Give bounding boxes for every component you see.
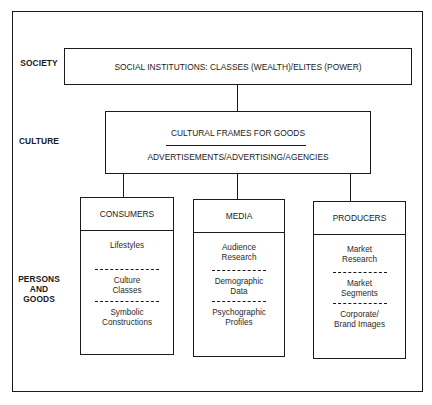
dashed-divider <box>333 303 387 304</box>
column-header: MEDIA <box>194 200 284 233</box>
level-label-line: AND <box>16 284 62 294</box>
level-label-society: SOCIETY <box>16 58 62 68</box>
level-label-persons-and-goods: PERSONS AND GOODS <box>16 274 62 304</box>
column-header: PRODUCERS <box>314 202 405 235</box>
society-box-text: SOCIAL INSTITUTIONS: CLASSES (WEALTH)/EL… <box>114 62 361 72</box>
list-item: DemographicData <box>215 277 264 297</box>
level-label-culture: CULTURE <box>16 136 62 146</box>
dashed-divider <box>333 272 387 273</box>
connector-line <box>123 174 124 198</box>
dashed-divider <box>95 269 159 270</box>
list-item: Corporate/Brand Images <box>334 310 385 330</box>
column-body: AudienceResearch DemographicData Psychog… <box>194 233 284 328</box>
connector-line <box>237 85 238 111</box>
society-box: SOCIAL INSTITUTIONS: CLASSES (WEALTH)/EL… <box>64 48 412 85</box>
column-body: Lifestyles CultureClasses SymbolicConstr… <box>81 231 173 328</box>
list-item: Lifestyles <box>110 241 144 251</box>
level-label-line: PERSONS <box>16 274 62 284</box>
culture-box-title: CULTURAL FRAMES FOR GOODS <box>106 128 370 138</box>
column-header-label: MEDIA <box>226 211 253 221</box>
column-header: CONSUMERS <box>81 198 173 231</box>
culture-box: CULTURAL FRAMES FOR GOODS ADVERTISEMENTS… <box>105 111 371 174</box>
connector-line <box>350 174 351 201</box>
media-box: MEDIA AudienceResearch DemographicData P… <box>193 199 285 357</box>
producers-box: PRODUCERS MarketResearch MarketSegments … <box>313 201 406 359</box>
list-item: AudienceResearch <box>221 243 256 263</box>
list-item: SymbolicConstructions <box>102 308 152 328</box>
level-label-line: GOODS <box>16 294 62 304</box>
dashed-divider <box>212 301 266 302</box>
consumers-box: CONSUMERS Lifestyles CultureClasses Symb… <box>80 197 174 355</box>
dashed-divider <box>95 301 159 302</box>
list-item: MarketResearch <box>342 245 377 265</box>
dashed-divider <box>212 270 266 271</box>
list-item: CultureClasses <box>112 276 141 296</box>
column-header-label: PRODUCERS <box>333 213 387 223</box>
column-header-label: CONSUMERS <box>100 209 154 219</box>
list-item: PsychographicProfiles <box>212 308 266 328</box>
culture-box-subtitle: ADVERTISEMENTS/ADVERTISING/AGENCIES <box>106 152 370 162</box>
list-item: MarketSegments <box>341 279 378 299</box>
culture-box-divider <box>166 145 306 146</box>
connector-line <box>237 174 238 199</box>
column-body: MarketResearch MarketSegments Corporate/… <box>314 235 405 330</box>
